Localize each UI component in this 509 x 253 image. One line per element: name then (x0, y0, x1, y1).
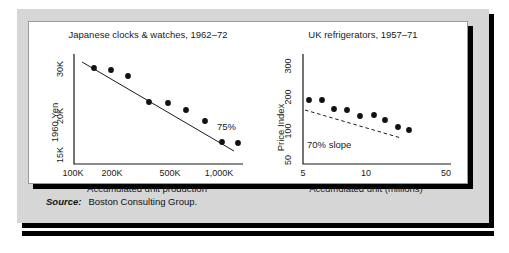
source-value: Boston Consulting Group. (88, 196, 197, 207)
data-point (382, 117, 388, 123)
data-point (235, 140, 241, 146)
exhibit-figure: Japanese clocks & watches, 1962–72 1960 … (0, 0, 509, 253)
data-points-left (91, 65, 241, 146)
data-point (344, 107, 350, 113)
source-label: Source: (46, 196, 81, 207)
bottom-rule (22, 231, 494, 236)
chart-container: Japanese clocks & watches, 1962–72 1960 … (28, 21, 468, 184)
source-note: Source:Boston Consulting Group. (46, 196, 197, 207)
chart-uk-refrigerators: UK refrigerators, 1957–71 Price Index 30… (261, 22, 469, 185)
data-points-right (306, 97, 412, 133)
plot-area-right (261, 22, 469, 185)
trendline-right (305, 110, 401, 138)
data-point (219, 139, 225, 145)
data-point (125, 73, 131, 79)
trendline-left (82, 62, 234, 151)
axis-spine-left (74, 54, 243, 164)
data-point (371, 112, 377, 118)
data-point (183, 107, 189, 113)
data-point (165, 100, 171, 106)
data-point (108, 67, 114, 73)
axis-spine-right (303, 54, 451, 164)
data-point (331, 106, 337, 112)
chart-japanese-clocks-watches: Japanese clocks & watches, 1962–72 1960 … (29, 22, 261, 185)
data-point (406, 127, 412, 133)
data-point (357, 113, 363, 119)
data-point (146, 99, 152, 105)
plot-area-left (29, 22, 261, 185)
data-point (306, 97, 312, 103)
data-point (319, 97, 325, 103)
data-point (202, 118, 208, 124)
data-point (91, 65, 97, 71)
data-point (395, 124, 401, 130)
